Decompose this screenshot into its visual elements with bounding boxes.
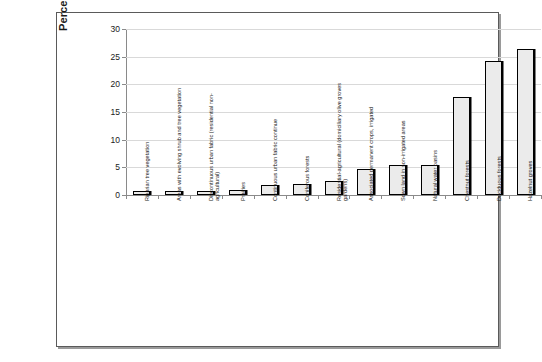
x-axis-tick — [381, 195, 382, 199]
y-axis-title: Percentages of surface area occupied — [57, 0, 73, 31]
y-axis-tick-labels: 051015202530 — [98, 29, 120, 196]
x-axis-tick — [158, 195, 159, 199]
x-axis-tick-labels: Riparian tree vegetationAreas with evolv… — [126, 201, 541, 341]
x-axis-tick-label: Hazelnut groves — [527, 73, 533, 201]
bar-series — [126, 29, 541, 195]
y-axis-tick — [122, 29, 126, 30]
x-axis-tick — [318, 195, 319, 199]
x-axis-tick — [509, 195, 510, 199]
plot-area — [126, 29, 541, 195]
chart-frame: Percentages of surface area occupied 051… — [56, 12, 499, 347]
y-axis-tick — [122, 167, 126, 168]
x-axis-tick-label: Associated permanent crops, irrigated — [368, 73, 374, 201]
x-axis-tick-label: Coniferous forests — [304, 73, 310, 201]
x-axis-tick-label: Deciduous forests — [496, 73, 502, 201]
y-axis-tick-label: 0 — [100, 191, 120, 199]
x-axis-tick-label: Natural water basins — [432, 73, 438, 201]
x-axis-tick — [445, 195, 446, 199]
y-axis-tick-label: 30 — [100, 25, 120, 33]
x-axis-tick-label: Chestnut forests — [464, 73, 470, 201]
y-axis-tick — [122, 57, 126, 58]
y-axis-title-container: Percentages of surface area occupied — [79, 31, 95, 231]
y-axis-tick — [122, 140, 126, 141]
x-axis-tick-label: Riparian tree vegetation — [144, 73, 150, 201]
x-axis-tick-label: Discontinuous urban fabric (residential … — [208, 73, 221, 201]
y-axis-tick-label: 5 — [100, 163, 120, 171]
x-axis-tick — [477, 195, 478, 199]
x-axis-tick — [222, 195, 223, 199]
y-axis-tick-label: 15 — [100, 108, 120, 116]
x-axis-tick — [286, 195, 287, 199]
y-axis-tick-label: 25 — [100, 53, 120, 61]
x-axis-tick — [190, 195, 191, 199]
y-axis-tick — [122, 195, 126, 196]
y-axis-tick-label: 10 — [100, 136, 120, 144]
x-axis-tick-label: Sown land in non-irrigated areas — [400, 73, 406, 201]
x-axis-tick — [413, 195, 414, 199]
x-axis-line — [126, 195, 541, 196]
y-axis-tick — [122, 112, 126, 113]
x-axis-tick-label: Areas with evolving shrub and tree veget… — [176, 73, 182, 201]
x-axis-tick — [349, 195, 350, 199]
x-axis-tick — [254, 195, 255, 199]
x-axis-tick-label: Prairies — [240, 73, 246, 201]
y-axis-tick-label: 20 — [100, 80, 120, 88]
x-axis-tick-label: Residential-agricultural (domiciliary ol… — [336, 73, 349, 201]
x-axis-tick-label: Continuous urban fabric continue — [272, 73, 278, 201]
y-axis-tick — [122, 84, 126, 85]
x-axis-tick — [126, 195, 127, 199]
